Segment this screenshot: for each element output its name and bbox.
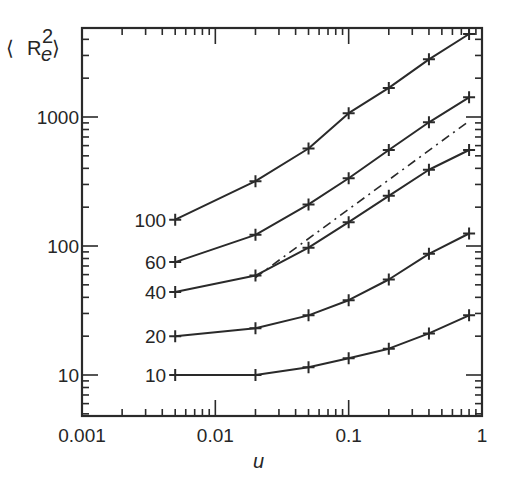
x-axis-title: u — [253, 450, 264, 472]
plus-marker-icon — [383, 343, 395, 355]
series-10 — [169, 309, 475, 381]
data-series — [169, 28, 475, 381]
plus-marker-icon — [463, 28, 475, 40]
plus-marker-icon — [423, 116, 435, 128]
plus-marker-icon — [249, 322, 261, 334]
plus-marker-icon — [169, 256, 181, 268]
y-title-right-bracket: ⟩ — [52, 37, 60, 59]
plus-marker-icon — [249, 369, 261, 381]
y-tick-label: 100 — [47, 236, 79, 257]
series-line — [175, 150, 469, 292]
plus-marker-icon — [463, 144, 475, 156]
plus-marker-icon — [343, 352, 355, 364]
plus-marker-icon — [423, 164, 435, 176]
series-label: 40 — [145, 282, 166, 303]
dash-dot-reference-line — [255, 121, 469, 277]
plus-marker-icon — [343, 216, 355, 228]
series-label: 20 — [145, 326, 166, 347]
plus-marker-icon — [169, 214, 181, 226]
x-tick-label: 1 — [477, 425, 488, 446]
series-60 — [169, 91, 475, 268]
series-labels: 10060402010 — [134, 210, 166, 386]
y-title-main: R — [27, 37, 41, 59]
chart: 0.0010.010.11101001000 10060402010 u ⟨ R… — [0, 0, 505, 483]
plus-marker-icon — [463, 227, 475, 239]
plus-marker-icon — [343, 172, 355, 184]
y-tick-label: 10 — [58, 365, 79, 386]
plus-marker-icon — [169, 369, 181, 381]
plus-marker-icon — [249, 229, 261, 241]
plus-marker-icon — [423, 248, 435, 260]
plus-marker-icon — [303, 309, 315, 321]
series-label: 100 — [134, 210, 166, 231]
series-label: 60 — [145, 252, 166, 273]
axis-titles: u ⟨ R e 2 ⟩ — [6, 25, 264, 472]
series-line — [175, 315, 469, 375]
series-line — [175, 34, 469, 220]
y-tick-label: 1000 — [37, 107, 79, 128]
series-label: 10 — [145, 365, 166, 386]
x-tick-label: 0.001 — [58, 425, 106, 446]
plus-marker-icon — [303, 361, 315, 373]
reference-line — [255, 121, 469, 277]
plus-marker-icon — [169, 330, 181, 342]
plus-marker-icon — [169, 286, 181, 298]
plus-marker-icon — [383, 144, 395, 156]
plus-marker-icon — [303, 198, 315, 210]
series-40 — [169, 144, 475, 298]
plus-marker-icon — [463, 91, 475, 103]
plus-marker-icon — [343, 294, 355, 306]
plus-marker-icon — [249, 175, 261, 187]
plus-marker-icon — [383, 190, 395, 202]
plus-marker-icon — [249, 270, 261, 282]
x-tick-label: 0.1 — [335, 425, 361, 446]
plus-marker-icon — [423, 327, 435, 339]
plus-marker-icon — [463, 309, 475, 321]
y-axis-title: ⟨ R e 2 ⟩ — [6, 25, 60, 65]
plus-marker-icon — [383, 273, 395, 285]
x-tick-label: 0.01 — [197, 425, 234, 446]
plus-marker-icon — [303, 242, 315, 254]
series-line — [175, 233, 469, 336]
y-title-left-bracket: ⟨ — [6, 37, 14, 59]
